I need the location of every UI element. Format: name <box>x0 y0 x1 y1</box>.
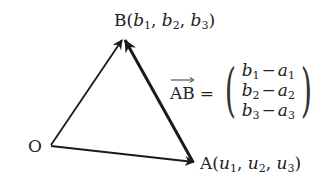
vector-arrow-icon <box>170 77 195 83</box>
row1-minus: − <box>262 60 276 80</box>
point-B-letter: B <box>114 10 127 30</box>
row1-a: a <box>278 60 288 80</box>
a1-sub: 1 <box>230 162 237 175</box>
column-vector: b1−a1 b2−a2 b3−a3 <box>242 60 295 120</box>
b3-var: b <box>191 10 202 30</box>
row2-b: b <box>242 80 253 100</box>
row3-bs: 3 <box>253 109 260 122</box>
matrix-row-2: b2−a2 <box>242 80 295 100</box>
point-O-label: O <box>28 138 42 155</box>
b2-var: b <box>162 10 173 30</box>
row3-a: a <box>278 100 288 120</box>
b2-sub: 2 <box>173 19 180 32</box>
equals-sign: = <box>200 77 214 103</box>
a1-var: u <box>219 153 230 173</box>
matrix-row-3: b3−a3 <box>242 100 295 120</box>
point-B-label: B(b1, b2, b3) <box>114 12 215 29</box>
open-paren: ( <box>225 61 236 119</box>
b3-sub: 3 <box>201 19 208 32</box>
row2-a: a <box>278 80 288 100</box>
matrix-row-1: b1−a1 <box>242 60 295 80</box>
vector-OA-arrow <box>51 146 194 162</box>
row3-as: 3 <box>288 109 295 122</box>
row3-b: b <box>242 100 253 120</box>
close-paren: ) <box>301 61 312 119</box>
row3-minus: − <box>262 100 276 120</box>
row1-b: b <box>242 60 253 80</box>
vector-AB-formula: AB = ( b1−a1 b2−a2 b3−a3 ) <box>170 60 318 120</box>
b1-sub: 1 <box>144 19 151 32</box>
a2-var: u <box>248 153 259 173</box>
vector-OB-arrow <box>51 40 122 145</box>
vector-AB-symbol: AB <box>170 77 195 103</box>
a3-sub: 3 <box>287 162 294 175</box>
a2-sub: 2 <box>259 162 266 175</box>
b1-var: b <box>133 10 144 30</box>
vector-AB-text: AB <box>170 83 195 103</box>
point-A-label: A(u1, u2, u3) <box>200 155 301 172</box>
point-A-letter: A <box>200 153 212 173</box>
a3-var: u <box>276 153 287 173</box>
row2-minus: − <box>262 80 276 100</box>
